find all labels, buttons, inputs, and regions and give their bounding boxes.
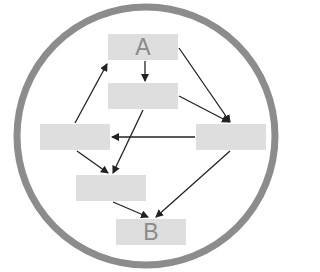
edge-n4-b (156, 151, 230, 217)
node-3 (40, 124, 110, 150)
node-2 (108, 83, 178, 109)
edge-n2-n5 (113, 110, 143, 173)
node-a: A (108, 34, 178, 60)
edge-n5-b (113, 202, 148, 217)
edge-n3-a (75, 64, 107, 123)
node-5 (76, 175, 146, 201)
node-b: B (116, 219, 186, 245)
node-4 (196, 124, 266, 150)
edge-n3-n5 (77, 151, 108, 173)
edge-a-n4 (179, 48, 230, 122)
